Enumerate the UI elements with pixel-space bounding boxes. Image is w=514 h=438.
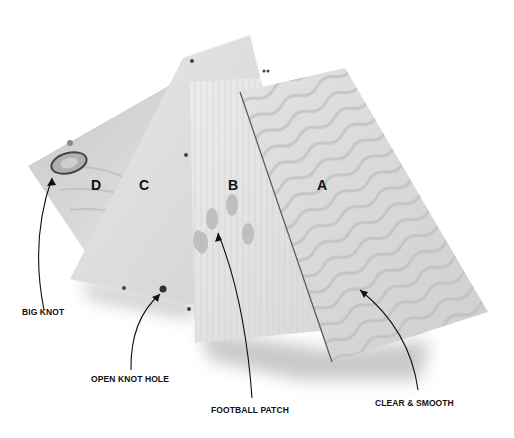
callout-open-knot-hole: OPEN KNOT HOLE xyxy=(91,374,169,384)
callout-football-patch: FOOTBALL PATCH xyxy=(211,405,289,415)
grade-letter-a: A xyxy=(317,177,327,193)
callout-clear-smooth: CLEAR & SMOOTH xyxy=(375,398,454,408)
plywood-photo: D C B A BIG KNOT OPEN KNOT HOLE FOOTBALL… xyxy=(0,0,514,438)
open-knot-hole-mark xyxy=(160,286,167,293)
callout-big-knot: BIG KNOT xyxy=(22,307,64,317)
plywood-illustration xyxy=(0,0,514,438)
grade-letter-b: B xyxy=(228,177,238,193)
grade-letter-c: C xyxy=(139,177,149,193)
grade-letter-d: D xyxy=(91,177,101,193)
